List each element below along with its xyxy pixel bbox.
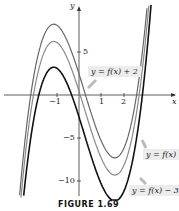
- label-f-plus-2: y = f(x) + 2: [88, 66, 141, 77]
- curve-1: [21, 6, 149, 198]
- x-axis-label: x: [172, 97, 177, 106]
- x-tick-minus1: −1: [49, 97, 61, 106]
- y-tick-5: 5: [83, 47, 88, 56]
- y-tick-minus5: −5: [63, 133, 75, 142]
- x-tick-2: 2: [121, 97, 126, 106]
- y-axis-label: y: [70, 1, 75, 10]
- figure-caption: FIGURE 1.69: [58, 200, 119, 209]
- label-f: y = f(x): [143, 149, 179, 160]
- label-f-minus-3: y = f(x) − 3: [129, 185, 179, 196]
- chart-plot: [0, 0, 179, 211]
- y-axis-arrow-icon: [77, 6, 81, 11]
- curve-0: [20, 8, 147, 195]
- x-tick-1: 1: [99, 97, 104, 106]
- y-tick-minus10: −10: [58, 176, 75, 185]
